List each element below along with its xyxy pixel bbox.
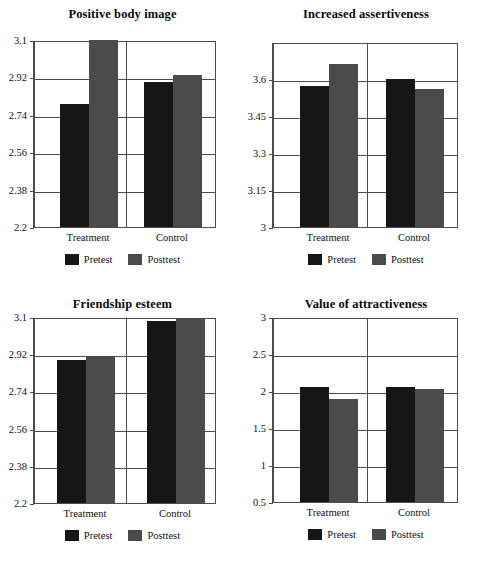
x-axis-category-label: Treatment	[64, 508, 107, 520]
y-axis-tick-label: 2.92	[0, 73, 27, 84]
gridline	[274, 81, 457, 82]
y-axis-tick-label: 2.56	[0, 424, 27, 435]
y-axis-spine	[33, 318, 34, 504]
y-axis-tick-mark	[269, 80, 273, 81]
bar-control-posttest	[415, 89, 444, 227]
plot-container-3: 32.521.510.5TreatmentControlPretestPostt…	[245, 290, 487, 575]
y-axis-tick-mark	[269, 228, 273, 229]
x-axis-category-label: Control	[159, 508, 191, 520]
bar-treatment-pretest	[300, 86, 329, 227]
y-axis-tick-mark	[30, 116, 34, 117]
y-axis-tick-mark	[30, 153, 34, 154]
y-axis-tick-label: 1	[245, 461, 266, 472]
legend-label: Pretest	[327, 254, 356, 265]
y-axis-tick-label: 3.1	[0, 36, 27, 47]
legend-label: Posttest	[147, 530, 180, 541]
y-axis-tick-label: 2.74	[0, 387, 27, 398]
legend-item-posttest: Posttest	[372, 254, 424, 265]
y-axis-tick-mark	[30, 392, 34, 393]
y-axis-tick-label: 3.15	[245, 186, 266, 197]
legend-swatch-posttest	[128, 530, 142, 541]
bar-control-pretest	[386, 387, 415, 502]
bar-treatment-pretest	[300, 387, 329, 502]
legend-swatch-posttest	[128, 254, 142, 265]
y-axis-tick-mark	[30, 318, 34, 319]
plot-container-2: 3.12.922.742.562.382.2TreatmentControlPr…	[0, 290, 245, 575]
y-axis-tick-mark	[269, 466, 273, 467]
legend-item-posttest: Posttest	[372, 529, 424, 540]
x-axis-category-label: Treatment	[67, 232, 110, 244]
y-axis-tick-label: 2.38	[0, 462, 27, 473]
y-axis-tick-label: 3.3	[245, 149, 266, 160]
chart-panel-value-of-attractiveness: Value of attractiveness 32.521.510.5Trea…	[245, 290, 487, 575]
y-axis-tick-label: 3	[245, 313, 266, 324]
bar-control-posttest	[173, 75, 202, 227]
chart-legend: PretestPosttest	[0, 530, 245, 541]
y-axis-tick-mark	[30, 430, 34, 431]
bar-control-posttest	[415, 389, 444, 502]
chart-panel-friendship-esteem: Friendship esteem 3.12.922.742.562.382.2…	[0, 290, 245, 575]
legend-swatch-pretest	[308, 529, 322, 540]
legend-label: Pretest	[84, 254, 113, 265]
bar-treatment-posttest	[89, 40, 118, 227]
bar-control-posttest	[176, 318, 205, 503]
bar-treatment-posttest	[329, 64, 358, 227]
y-axis-tick-label: 3	[245, 223, 266, 234]
plot-container-0: 3.12.922.742.562.382.2TreatmentControlPr…	[0, 0, 245, 290]
chart-panel-positive-body-image: Positive body image 3.12.922.742.562.382…	[0, 0, 245, 290]
y-axis-tick-mark	[30, 41, 34, 42]
category-separator	[126, 319, 127, 503]
plot-area	[34, 318, 216, 504]
legend-label: Posttest	[391, 529, 424, 540]
y-axis-tick-label: 3.1	[0, 313, 27, 324]
legend-label: Posttest	[147, 254, 180, 265]
y-axis-tick-label: 2.38	[0, 185, 27, 196]
bar-treatment-posttest	[329, 399, 358, 502]
y-axis-tick-label: 2.92	[0, 350, 27, 361]
legend-item-pretest: Pretest	[308, 254, 356, 265]
legend-swatch-posttest	[372, 254, 386, 265]
y-axis-tick-mark	[30, 504, 34, 505]
bar-control-pretest	[147, 321, 176, 503]
plot-area	[273, 43, 458, 228]
legend-swatch-pretest	[308, 254, 322, 265]
figure-panel-grid: Positive body image 3.12.922.742.562.382…	[0, 0, 487, 575]
y-axis-tick-mark	[269, 154, 273, 155]
y-axis-tick-label: 0.5	[245, 498, 266, 509]
y-axis-tick-mark	[30, 355, 34, 356]
y-axis-tick-label: 2.5	[245, 350, 266, 361]
y-axis-tick-mark	[269, 318, 273, 319]
legend-label: Posttest	[391, 254, 424, 265]
legend-item-pretest: Pretest	[308, 529, 356, 540]
x-axis-category-label: Treatment	[307, 232, 350, 244]
y-axis-tick-mark	[30, 78, 34, 79]
chart-legend: PretestPosttest	[245, 254, 487, 265]
x-axis-category-label: Control	[398, 507, 430, 519]
y-axis-tick-label: 2.2	[0, 223, 27, 234]
y-axis-tick-label: 3.6	[245, 75, 266, 86]
y-axis-tick-mark	[269, 191, 273, 192]
y-axis-tick-mark	[30, 467, 34, 468]
legend-swatch-pretest	[65, 530, 79, 541]
plot-area	[273, 318, 458, 503]
y-axis-tick-mark	[269, 392, 273, 393]
legend-item-pretest: Pretest	[65, 530, 113, 541]
legend-label: Pretest	[84, 530, 113, 541]
plot-container-1: 3.63.453.33.153TreatmentControlPretestPo…	[245, 0, 487, 290]
y-axis-tick-label: 3.45	[245, 112, 266, 123]
category-separator	[126, 42, 127, 227]
chart-legend: PretestPosttest	[0, 254, 245, 265]
legend-label: Pretest	[327, 529, 356, 540]
legend-item-pretest: Pretest	[65, 254, 113, 265]
y-axis-tick-mark	[30, 191, 34, 192]
y-axis-tick-mark	[269, 503, 273, 504]
plot-area	[34, 41, 216, 228]
y-axis-tick-mark	[269, 355, 273, 356]
bar-control-pretest	[386, 79, 415, 227]
category-separator	[367, 319, 368, 502]
x-axis-category-label: Control	[156, 232, 188, 244]
legend-swatch-posttest	[372, 529, 386, 540]
y-axis-tick-mark	[30, 228, 34, 229]
chart-legend: PretestPosttest	[245, 529, 487, 540]
legend-item-posttest: Posttest	[128, 530, 180, 541]
